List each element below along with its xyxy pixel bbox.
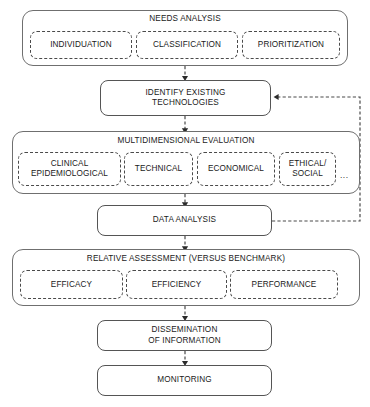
sub-box-clinical-line1: CLINICAL bbox=[31, 159, 108, 169]
flowchart-diagram: NEEDS ANALYSIS INDIVIDUATION CLASSIFICAT… bbox=[0, 0, 370, 407]
sub-box-ethical-line1: ETHICAL/ bbox=[289, 159, 327, 169]
sub-box-economical[interactable]: ECONOMICAL bbox=[197, 152, 275, 186]
sub-box-efficiency-label: EFFICIENCY bbox=[152, 280, 202, 290]
sub-box-prioritization[interactable]: PRIORITIZATION bbox=[242, 31, 340, 59]
process-dissemination-line2: OF INFORMATION bbox=[148, 336, 220, 347]
sub-box-technical-label: TECHNICAL bbox=[135, 164, 182, 174]
sub-box-performance[interactable]: PERFORMANCE bbox=[230, 270, 338, 299]
group-needs-analysis-title: NEEDS ANALYSIS bbox=[22, 14, 348, 24]
process-dissemination-line1: DISSEMINATION bbox=[148, 325, 220, 336]
sub-box-efficacy[interactable]: EFFICACY bbox=[20, 270, 123, 299]
process-dissemination-of-information[interactable]: DISSEMINATION OF INFORMATION bbox=[97, 320, 272, 351]
process-monitoring-label: MONITORING bbox=[157, 375, 212, 386]
process-monitoring[interactable]: MONITORING bbox=[97, 365, 272, 396]
sub-box-performance-label: PERFORMANCE bbox=[252, 280, 317, 290]
process-data-analysis-label: DATA ANALYSIS bbox=[153, 215, 216, 226]
process-identify-line1: IDENTIFY EXISTING bbox=[145, 88, 225, 99]
sub-box-economical-label: ECONOMICAL bbox=[208, 164, 264, 174]
evaluation-ellipsis: ... bbox=[340, 170, 349, 180]
sub-box-clinical-epidemiological[interactable]: CLINICAL EPIDEMIOLOGICAL bbox=[18, 152, 121, 186]
sub-box-individuation[interactable]: INDIVIDUATION bbox=[30, 31, 132, 59]
sub-box-prioritization-label: PRIORITIZATION bbox=[258, 40, 324, 50]
group-multidimensional-evaluation-title: MULTIDIMENSIONAL EVALUATION bbox=[12, 136, 360, 146]
sub-box-classification-label: CLASSIFICATION bbox=[153, 40, 221, 50]
group-relative-assessment-title: RELATIVE ASSESSMENT (VERSUS BENCHMARK) bbox=[12, 254, 360, 264]
process-identify-existing-technologies[interactable]: IDENTIFY EXISTING TECHNOLOGIES bbox=[100, 80, 271, 116]
sub-box-technical[interactable]: TECHNICAL bbox=[124, 152, 193, 186]
sub-box-classification[interactable]: CLASSIFICATION bbox=[136, 31, 238, 59]
sub-box-efficacy-label: EFFICACY bbox=[51, 280, 92, 290]
sub-box-efficiency[interactable]: EFFICIENCY bbox=[126, 270, 227, 299]
sub-box-individuation-label: INDIVIDUATION bbox=[50, 40, 112, 50]
process-identify-line2: TECHNOLOGIES bbox=[145, 98, 225, 109]
process-data-analysis[interactable]: DATA ANALYSIS bbox=[97, 205, 272, 236]
sub-box-clinical-line2: EPIDEMIOLOGICAL bbox=[31, 169, 108, 179]
sub-box-ethical-social[interactable]: ETHICAL/ SOCIAL bbox=[279, 152, 336, 186]
sub-box-ethical-line2: SOCIAL bbox=[289, 169, 327, 179]
